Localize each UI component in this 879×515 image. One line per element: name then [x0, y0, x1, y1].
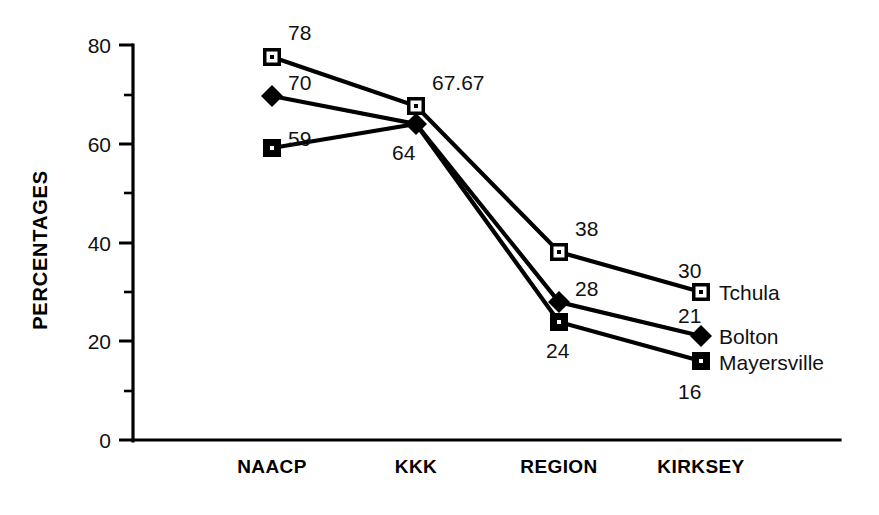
axis-group: 80 60 40 20 0 PERCENTAGES — [29, 34, 840, 452]
y-tick-label-60: 60 — [88, 133, 111, 156]
value-label-mayersville-kirksey: 16 — [678, 380, 701, 403]
data-point-tchula-kirksey — [692, 283, 710, 301]
series-line-tchula — [272, 57, 701, 292]
data-point-tchula-kkk — [407, 97, 425, 115]
series-markers-tchula — [263, 48, 710, 301]
y-tick-label-0: 0 — [99, 429, 111, 452]
value-label-bolton-naacp: 70 — [288, 71, 311, 94]
x-category-label-kkk: KKK — [395, 456, 437, 477]
value-label-mayersville-region: 24 — [546, 339, 570, 362]
value-label-bolton-kirksey: 21 — [678, 304, 701, 327]
y-tick-label-20: 20 — [88, 330, 111, 353]
series-markers-mayersville — [263, 139, 710, 370]
legend-label-bolton: Bolton — [719, 325, 779, 348]
legend-label-mayersville: Mayersville — [719, 351, 824, 374]
value-label-bolton-region: 28 — [575, 277, 598, 300]
x-category-label-naacp: NAACP — [237, 456, 307, 477]
x-category-label-region: REGION — [520, 456, 597, 477]
series-line-mayersville — [272, 124, 701, 361]
x-category-label-kirksey: KIRKSEY — [657, 456, 744, 477]
value-label-mayersville-naacp: 59 — [288, 127, 311, 150]
value-label-bolton-kkk: 64 — [392, 141, 416, 164]
data-point-tchula-naacp — [263, 48, 281, 66]
data-point-tchula-region — [550, 243, 568, 261]
data-point-mayersville-region — [550, 313, 568, 331]
y-tick-label-80: 80 — [88, 34, 111, 57]
value-label-tchula-kkk: 67.67 — [432, 71, 485, 94]
series-markers-bolton — [261, 85, 712, 347]
x-axis-category-labels: NAACP KKK REGION KIRKSEY — [237, 456, 744, 477]
data-point-mayersville-kirksey — [692, 352, 710, 370]
value-label-tchula-kirksey: 30 — [678, 259, 701, 282]
line-chart: 80 60 40 20 0 PERCENTAGES NAACP KKK REGI… — [0, 0, 879, 515]
value-label-tchula-region: 38 — [575, 217, 598, 240]
legend: Tchula Bolton Mayersville — [719, 281, 824, 374]
series-lines — [272, 57, 701, 361]
data-point-mayersville-naacp — [263, 139, 281, 157]
data-point-bolton-naacp — [261, 85, 283, 107]
legend-label-tchula: Tchula — [719, 281, 780, 304]
y-axis-title: PERCENTAGES — [29, 170, 51, 330]
y-tick-label-40: 40 — [88, 232, 111, 255]
chart-canvas: 80 60 40 20 0 PERCENTAGES NAACP KKK REGI… — [0, 0, 879, 515]
data-point-bolton-kirksey — [690, 325, 712, 347]
series-line-bolton — [272, 96, 701, 336]
value-label-tchula-naacp: 78 — [288, 21, 311, 44]
